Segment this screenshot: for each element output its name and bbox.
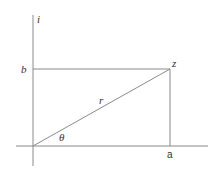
imaginary-axis-label: i (37, 13, 40, 25)
point-z-label: z (171, 57, 177, 69)
real-component-label: a (167, 149, 173, 160)
modulus-label: r (99, 94, 104, 106)
complex-plane-diagram: i b z r θ a (0, 0, 220, 179)
modulus-line (33, 69, 170, 146)
angle-theta-label: θ (59, 131, 65, 143)
imaginary-component-label: b (21, 63, 27, 75)
